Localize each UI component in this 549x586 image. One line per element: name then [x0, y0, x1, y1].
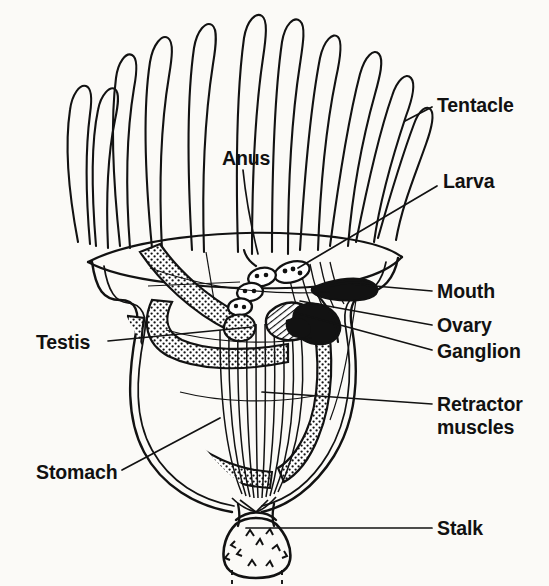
label-ganglion: Ganglion [437, 340, 521, 362]
label-mouth: Mouth [437, 280, 495, 302]
label-retractor-line2: muscles [437, 416, 515, 438]
anatomy-diagram: Tentacle Larva Anus Mouth Ovary Ganglion… [0, 0, 549, 586]
label-larva: Larva [443, 170, 495, 192]
label-tentacle: Tentacle [437, 94, 514, 116]
label-retractor-line1: Retractor [437, 393, 523, 415]
diagram-page: Tentacle Larva Anus Mouth Ovary Ganglion… [0, 0, 549, 586]
label-stalk: Stalk [437, 517, 483, 539]
label-stomach: Stomach [36, 461, 118, 483]
label-testis: Testis [36, 331, 91, 353]
label-anus: Anus [222, 147, 271, 169]
label-ovary: Ovary [437, 314, 492, 336]
